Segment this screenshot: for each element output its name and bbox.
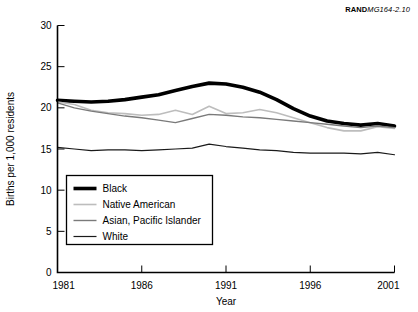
x-axis-title: Year (216, 296, 237, 307)
legend-label-black: Black (103, 183, 128, 194)
y-axis-title: Births per 1,000 residents (5, 92, 16, 206)
chart-legend: BlackNative AmericanAsian, Pacific Islan… (67, 176, 213, 245)
series-line-black (58, 83, 395, 126)
series-line-white (58, 144, 395, 155)
y-tick-label: 0 (46, 267, 52, 278)
x-tick-label: 1991 (215, 280, 238, 291)
axis-labels-group: 05101520253019811986199119962001YearBirt… (5, 20, 400, 306)
y-tick-label: 20 (40, 102, 52, 113)
y-tick-label: 10 (40, 185, 52, 196)
figure-container: RANDMG164-2.10 0510152025301981198619911… (0, 0, 418, 312)
y-tick-label: 15 (40, 144, 52, 155)
series-group (58, 83, 395, 155)
line-chart: 05101520253019811986199119962001YearBirt… (0, 0, 418, 312)
legend-label-asian-pacific-islander: Asian, Pacific Islander (103, 215, 202, 226)
y-tick-label: 30 (40, 20, 52, 31)
legend-label-white: White (103, 231, 129, 242)
x-tick-label: 1986 (131, 280, 154, 291)
x-tick-label: 1996 (299, 280, 322, 291)
x-tick-label: 1981 (53, 280, 76, 291)
y-tick-label: 5 (46, 226, 52, 237)
legend-label-native-american: Native American (103, 199, 176, 210)
x-tick-label: 2001 (377, 280, 400, 291)
y-tick-label: 25 (40, 61, 52, 72)
